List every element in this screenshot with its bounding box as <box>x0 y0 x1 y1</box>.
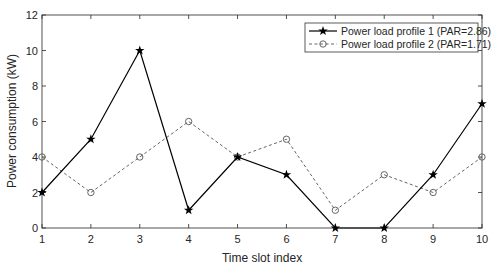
y-tick-label: 12 <box>26 9 38 21</box>
y-tick-label: 2 <box>32 187 38 199</box>
x-tick-label: 1 <box>39 233 45 245</box>
x-axis-label: Time slot index <box>222 251 302 265</box>
y-axis-label: Power consumption (kW) <box>5 54 19 188</box>
y-tick-label: 6 <box>32 116 38 128</box>
y-tick-label: 8 <box>32 80 38 92</box>
y-tick-label: 10 <box>26 45 38 57</box>
x-tick-label: 2 <box>88 233 94 245</box>
line-chart: 12345678910024681012 Time slot index Pow… <box>0 0 498 270</box>
y-tick-label: 4 <box>32 151 38 163</box>
x-tick-label: 10 <box>476 233 488 245</box>
x-tick-label: 5 <box>234 233 240 245</box>
x-tick-label: 8 <box>381 233 387 245</box>
x-tick-label: 9 <box>430 233 436 245</box>
x-tick-label: 4 <box>186 233 192 245</box>
x-tick-label: 6 <box>283 233 289 245</box>
x-tick-label: 3 <box>137 233 143 245</box>
legend: Power load profile 1 (PAR=2.86) Power lo… <box>305 23 491 52</box>
legend-label-profile-2: Power load profile 2 (PAR=1.71) <box>341 38 491 50</box>
legend-label-profile-1: Power load profile 1 (PAR=2.86) <box>341 25 491 37</box>
y-tick-label: 0 <box>32 222 38 234</box>
x-tick-label: 7 <box>332 233 338 245</box>
